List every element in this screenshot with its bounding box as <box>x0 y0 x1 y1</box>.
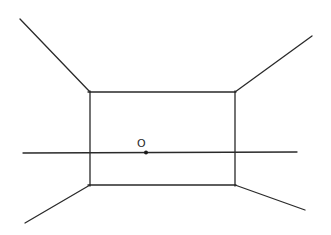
perspective-diagram: O <box>0 0 331 235</box>
diagonal-top-right <box>235 36 312 92</box>
horizon-line <box>23 152 297 153</box>
back-wall-rectangle <box>88 91 236 186</box>
diagonal-bottom-right <box>235 185 305 210</box>
point-label: O <box>137 137 146 150</box>
vanishing-point <box>144 151 148 155</box>
diagonal-bottom-left <box>25 185 90 223</box>
diagonal-top-left <box>20 19 90 92</box>
